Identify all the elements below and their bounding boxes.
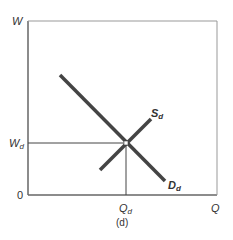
quantity-label: Qd — [119, 202, 133, 216]
wage-label: Wd — [9, 137, 24, 151]
labor-market-diagram: W 0 Q Wd Qd Sd Dd (d) — [0, 0, 233, 240]
y-axis-label: W — [12, 15, 24, 27]
equilibrium-point — [124, 141, 128, 145]
supply-label: Sd — [151, 107, 164, 121]
x-axis-label: Q — [211, 202, 220, 214]
demand-curve — [60, 75, 165, 181]
caption: (d) — [116, 217, 128, 228]
demand-label: Dd — [168, 179, 182, 193]
origin-label: 0 — [17, 189, 23, 201]
